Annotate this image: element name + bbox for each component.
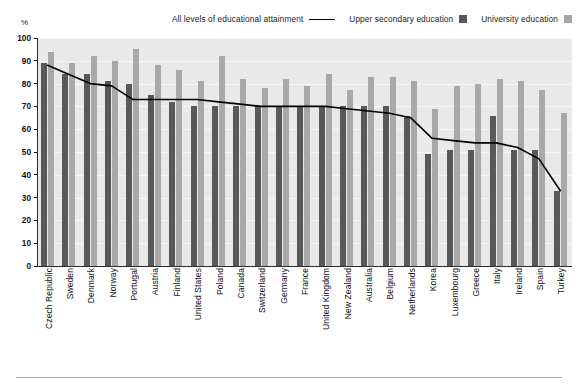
- y-axis-tick-label: 40: [22, 170, 31, 180]
- x-axis-label: Austria: [145, 268, 166, 356]
- x-axis-label: Belgium: [380, 268, 401, 356]
- x-axis-label-text: Sweden: [65, 268, 75, 299]
- legend-line-marker-icon: [309, 19, 335, 20]
- x-axis-label-text: Switzerland: [257, 268, 267, 313]
- x-axis-label-text: Austria: [150, 268, 160, 295]
- x-axis-label: Australia: [358, 268, 379, 356]
- x-axis-label-text: Korea: [428, 268, 438, 291]
- x-axis-label: Luxembourg: [444, 268, 465, 356]
- x-axis-label-text: Australia: [364, 268, 374, 302]
- x-axis-label-text: Poland: [215, 268, 225, 295]
- x-axis-label-text: Turkey: [556, 268, 566, 294]
- y-axis-tick-label: 20: [22, 215, 31, 225]
- x-axis-label: Denmark: [81, 268, 102, 356]
- x-axis-label: Ireland: [508, 268, 529, 356]
- x-axis-label-text: Ireland: [514, 268, 524, 295]
- y-axis-tick-label: 10: [22, 238, 31, 248]
- line-series-all-levels: [38, 38, 572, 266]
- y-axis-tick-label: 90: [22, 56, 31, 66]
- x-axis-label: Spain: [529, 268, 550, 356]
- x-axis-label: United States: [188, 268, 209, 356]
- x-axis-label: Sweden: [59, 268, 80, 356]
- x-axis-label: Switzerland: [252, 268, 273, 356]
- y-axis-tick-label: 80: [22, 79, 31, 89]
- y-axis-tick: 50: [0, 147, 38, 157]
- y-axis-tick-label: 70: [22, 101, 31, 111]
- x-axis-label: Italy: [487, 268, 508, 356]
- x-axis-label-text: Belgium: [385, 268, 395, 299]
- y-axis-tick-label: 0: [26, 261, 31, 271]
- x-axis-label: Germany: [273, 268, 294, 356]
- plot-area: [38, 38, 572, 266]
- legend-swatch-university-icon: [564, 15, 572, 23]
- y-axis-line: [37, 38, 38, 267]
- y-axis-tick: 10: [0, 238, 38, 248]
- x-axis-label: United Kingdom: [316, 268, 337, 356]
- x-axis-label-text: Portugal: [129, 268, 139, 300]
- x-axis-label-text: Spain: [535, 268, 545, 290]
- legend-item-upper-secondary: Upper secondary education: [349, 14, 467, 24]
- x-axis-label-text: Norway: [108, 268, 118, 297]
- legend-swatch-upper-secondary-icon: [459, 15, 467, 23]
- y-axis-tick-label: 100: [17, 33, 31, 43]
- y-axis-tick: 100: [0, 33, 38, 43]
- x-axis-label: Finland: [166, 268, 187, 356]
- y-axis-tick: 70: [0, 101, 38, 111]
- x-axis-label-text: Luxembourg: [450, 268, 460, 316]
- y-axis-tick: 40: [0, 170, 38, 180]
- x-axis-label: France: [294, 268, 315, 356]
- x-axis-label: Czech Republic: [38, 268, 59, 356]
- legend-item-university: University education: [481, 14, 572, 24]
- x-axis-label-text: Greece: [471, 268, 481, 296]
- x-axis-label-text: United States: [193, 268, 203, 320]
- y-axis-tick: 30: [0, 193, 38, 203]
- x-axis-label-text: United Kingdom: [321, 268, 331, 330]
- y-axis-tick: 20: [0, 215, 38, 225]
- x-axis-label-text: Netherlands: [407, 268, 417, 315]
- x-axis-label: Netherlands: [401, 268, 422, 356]
- x-axis-label-text: Italy: [492, 268, 502, 284]
- x-axis-label-text: New Zealand: [343, 268, 353, 319]
- x-axis-label: Poland: [209, 268, 230, 356]
- y-axis-tick: 80: [0, 79, 38, 89]
- x-axis-label: Turkey: [551, 268, 572, 356]
- x-axis-label-text: Czech Republic: [44, 268, 54, 329]
- footer-divider: [16, 377, 562, 378]
- x-axis-label: Korea: [422, 268, 443, 356]
- x-axis-label-text: Denmark: [86, 268, 96, 303]
- x-axis-line: [37, 266, 572, 267]
- y-axis-tick: 60: [0, 124, 38, 134]
- x-axis-label-text: France: [300, 268, 310, 295]
- x-axis-label: Norway: [102, 268, 123, 356]
- y-axis-tick-label: 50: [22, 147, 31, 157]
- chart-legend: All levels of educational attainment Upp…: [0, 12, 578, 26]
- legend-label-upper-secondary: Upper secondary education: [349, 14, 453, 24]
- y-axis-tick: 90: [0, 56, 38, 66]
- legend-label-university: University education: [481, 14, 558, 24]
- x-axis-label-text: Finland: [172, 268, 182, 297]
- legend-item-all-levels: All levels of educational attainment: [172, 14, 335, 24]
- legend-label-all-levels: All levels of educational attainment: [172, 14, 303, 24]
- x-axis-labels: Czech RepublicSwedenDenmarkNorwayPortuga…: [38, 268, 572, 356]
- x-axis-label: Greece: [465, 268, 486, 356]
- y-axis-tick: 0: [0, 261, 38, 271]
- x-axis-label: Canada: [230, 268, 251, 356]
- chart-figure: All levels of educational attainment Upp…: [0, 0, 578, 388]
- x-axis-label-text: Canada: [236, 268, 246, 298]
- y-axis-tick-label: 60: [22, 124, 31, 134]
- y-axis: 1009080706050403020100: [0, 38, 38, 266]
- y-axis-unit-label: %: [21, 18, 28, 27]
- y-axis-tick-label: 30: [22, 193, 31, 203]
- x-axis-label: New Zealand: [337, 268, 358, 356]
- x-axis-label: Portugal: [123, 268, 144, 356]
- x-axis-label-text: Germany: [279, 268, 289, 304]
